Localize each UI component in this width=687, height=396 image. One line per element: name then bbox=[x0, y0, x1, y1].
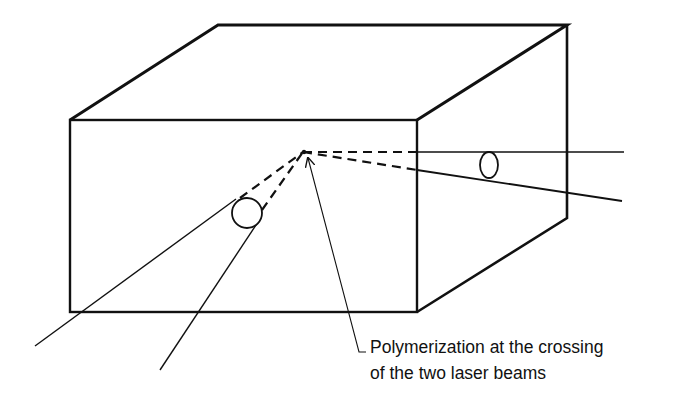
caption-line-2: of the two laser beams bbox=[370, 360, 603, 386]
right-beam-cross-section-icon bbox=[480, 152, 498, 178]
left-beam-1-solid bbox=[35, 199, 236, 346]
left-beam-1-dashed bbox=[240, 152, 303, 198]
hidden-beam-paths bbox=[240, 152, 417, 210]
leader-arrow bbox=[308, 158, 366, 352]
caption: Polymerization at the crossing of the tw… bbox=[370, 334, 603, 386]
right-beam-sloped-solid bbox=[417, 170, 622, 201]
caption-line-1: Polymerization at the crossing bbox=[370, 334, 603, 360]
box-top-face bbox=[70, 25, 567, 120]
left-beam-2-dashed bbox=[262, 152, 303, 210]
left-beam-cross-section-icon bbox=[232, 198, 262, 228]
crossing-point bbox=[302, 150, 306, 154]
right-beam-sloped-dashed bbox=[303, 152, 417, 170]
